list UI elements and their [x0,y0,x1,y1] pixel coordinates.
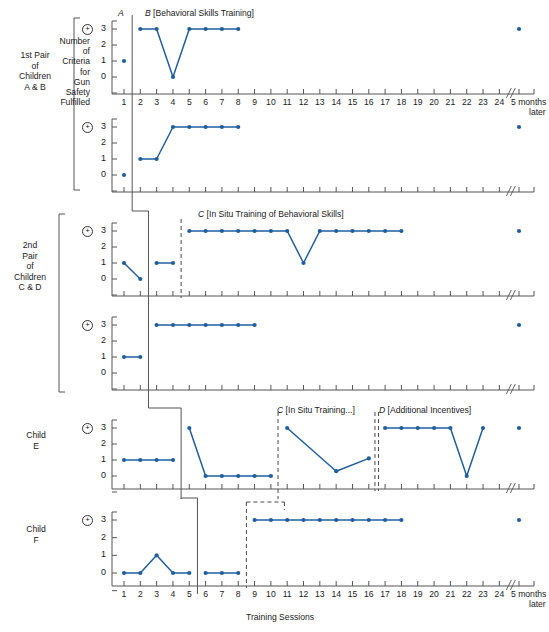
y-tick-label-3-2: 2 [94,335,106,345]
datapoint-child-e-19 [416,426,420,430]
x-tick-label-top-7: 7 [214,97,230,107]
x-tick-label-top-10: 10 [263,97,279,107]
x-tick-label-5: 5 [181,589,197,599]
datapoint-child-d-4 [171,323,175,327]
datapoint-child-c-6 [204,229,208,233]
x-tick-label-21: 21 [442,589,458,599]
datapoint-child-e-23 [481,426,485,430]
x-tick-label-top-6: 6 [198,97,214,107]
y-tick-label-1-0: 0 [94,169,106,179]
datapoint-child-d-8 [236,323,240,327]
x-tick-label-top-19: 19 [410,97,426,107]
x-tick-label-19: 19 [410,589,426,599]
y-tick-label-4-3: 3 [94,422,106,432]
datapoint-child-f-8 [236,571,240,575]
datapoint-child-c-18 [399,229,403,233]
x-tick-label-24: 24 [491,589,507,599]
y-tick-label-5-3: 3 [94,514,106,524]
y-tick-label-1-1: 1 [94,153,106,163]
group-child-e-line-0: Child [10,430,62,441]
followup-point-child-f [517,518,521,522]
datapoint-child-c-2 [138,277,142,281]
x-tick-label-top-9: 9 [247,97,263,107]
datapoint-child-b-7 [220,125,224,129]
datapoint-child-b-3 [155,157,159,161]
y-tick-label-2-1: 1 [94,257,106,267]
datapoint-child-e-10 [269,474,273,478]
group-1st-pair-line-0: 1st Pair [2,50,68,61]
datapoint-child-d-5 [187,323,191,327]
x-tick-label-20: 20 [426,589,442,599]
followup-label-line2: later [529,599,549,609]
x-tick-label-top-12: 12 [296,97,312,107]
datapoint-child-c-16 [367,229,371,233]
datapoint-child-d-1 [122,355,126,359]
phase-label-b-text: [Behavioral Skills Training] [151,8,254,18]
datapoint-child-a-8 [236,27,240,31]
datapoint-child-c-9 [253,229,257,233]
datapoint-child-e-6 [204,474,208,478]
followup-point-child-c [517,229,521,233]
datapoint-child-b-8 [236,125,240,129]
x-tick-label-top-2: 2 [132,97,148,107]
x-tick-label-top-3: 3 [149,97,165,107]
datapoint-child-e-3 [155,458,159,462]
datapoint-child-a-2 [138,27,142,31]
series-child-f-phase-A [124,555,189,573]
x-tick-label-top-24: 24 [491,97,507,107]
datapoint-child-a-4 [171,75,175,79]
series-child-e-phase-B [189,428,271,476]
phase-label-c-child-c: C [In Situ Training of Behavioral Skills… [198,209,344,219]
x-tick-label-2: 2 [132,589,148,599]
datapoint-child-f-11 [285,518,289,522]
datapoint-child-f-18 [399,518,403,522]
group-child-e-line-1: E [10,441,62,452]
followup-label-line1: 5 months [511,589,549,599]
datapoint-child-f-5 [187,571,191,575]
phase-label-d-child-e: D [Additional Incentives] [379,405,471,415]
y-tick-label-4-0: 0 [94,470,106,480]
x-tick-label-8: 8 [230,589,246,599]
series-child-c-phase-A [124,263,140,279]
datapoint-child-f-16 [367,518,371,522]
datapoint-child-e-17 [383,426,387,430]
y-axis-title-line-6: Fulfilled [38,97,90,107]
datapoint-child-f-15 [350,518,354,522]
x-tick-label-top-13: 13 [312,97,328,107]
x-tick-label-top-20: 20 [426,97,442,107]
followup-point-child-b [517,125,521,129]
plus-icon-2: + [82,226,93,237]
x-tick-label-top-22: 22 [459,97,475,107]
y-tick-label-2-2: 2 [94,241,106,251]
y-tick-label-0-0: 0 [94,71,106,81]
datapoint-child-f-2 [138,571,142,575]
x-tick-label-4: 4 [165,589,181,599]
datapoint-child-a-7 [220,27,224,31]
x-tick-label-top-5: 5 [181,97,197,107]
y-tick-label-0-3: 3 [94,23,106,33]
datapoint-child-c-17 [383,229,387,233]
group-2nd-pair-line-4: C & D [2,282,58,293]
bracket-2nd-pair [59,214,65,392]
datapoint-child-a-1 [122,59,126,63]
x-tick-label-1: 1 [116,589,132,599]
group-child-f: ChildF [10,524,62,545]
datapoint-child-c-15 [350,229,354,233]
y-tick-label-5-0: 0 [94,567,106,577]
datapoint-child-f-13 [318,518,322,522]
x-tick-label-top-21: 21 [442,97,458,107]
datapoint-child-e-14 [334,469,338,473]
datapoint-child-c-8 [236,229,240,233]
datapoint-child-b-4 [171,125,175,129]
datapoint-child-c-7 [220,229,224,233]
datapoint-child-e-21 [448,426,452,430]
datapoint-child-d-2 [138,355,142,359]
x-tick-label-top-15: 15 [345,97,361,107]
x-tick-label-top-16: 16 [361,97,377,107]
group-child-f-line-1: F [10,535,62,546]
x-tick-label-3: 3 [149,589,165,599]
x-tick-label-15: 15 [345,589,361,599]
datapoint-child-e-7 [220,474,224,478]
datapoint-child-f-1 [122,571,126,575]
series-child-e-phase-C [287,428,369,471]
